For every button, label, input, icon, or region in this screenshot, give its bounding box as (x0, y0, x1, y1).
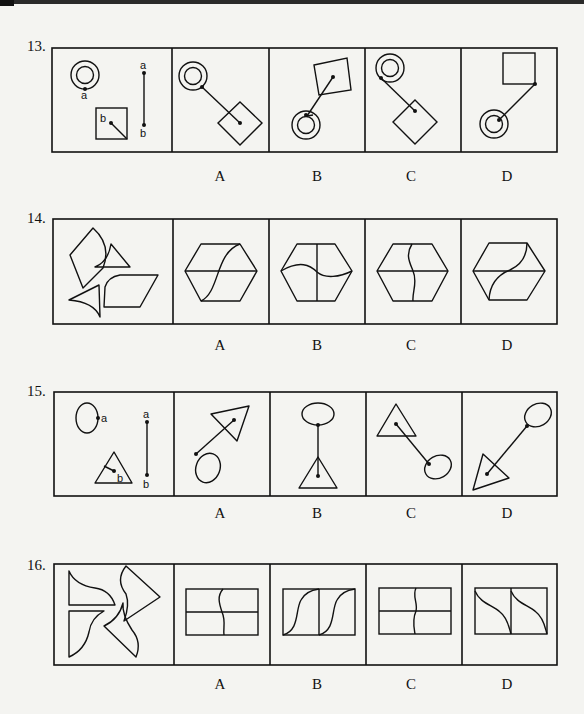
question-14-option-b-figure (281, 244, 352, 301)
stem-label-b-line: b (143, 478, 149, 490)
question-15-option-c-label[interactable]: C (391, 505, 431, 522)
stem-label-b-line: b (140, 127, 146, 139)
question-15-option-a-figure (192, 406, 249, 486)
stem-label-b-square: b (100, 112, 106, 124)
question-14-option-a-label[interactable]: A (200, 337, 240, 354)
question-13-option-b-figure (292, 58, 351, 139)
question-15-figure-row: a a b b (0, 385, 584, 505)
stem-label-a-circle: a (81, 89, 88, 101)
question-16-figure-row (0, 560, 584, 670)
question-16-option-b-figure (283, 589, 355, 635)
question-13-option-c-label[interactable]: C (391, 168, 431, 185)
question-13-option-c-figure (376, 54, 437, 144)
question-13-option-d-label[interactable]: D (487, 168, 527, 185)
stem-label-b-triangle: b (117, 472, 123, 484)
question-16-stem (69, 566, 160, 657)
question-14-option-d-figure (473, 243, 545, 300)
question-16-option-c-label[interactable]: C (391, 676, 431, 693)
question-15-option-a-label[interactable]: A (200, 505, 240, 522)
stem-label-a-line: a (140, 59, 147, 71)
question-13-figure-row: a a b b (0, 40, 584, 160)
question-14-option-c-figure (377, 244, 448, 301)
question-15-option-c-figure (377, 404, 456, 484)
question-15-option-d-figure (473, 398, 556, 490)
top-border-notch (0, 0, 14, 6)
question-16-option-a-figure (186, 589, 258, 635)
question-15-option-d-label[interactable]: D (487, 505, 527, 522)
stem-label-a-ellipse: a (101, 412, 108, 424)
question-14-option-c-label[interactable]: C (391, 337, 431, 354)
question-14-stem (69, 228, 158, 317)
question-16-option-a-label[interactable]: A (200, 676, 240, 693)
question-14-option-b-label[interactable]: B (297, 337, 337, 354)
question-13-option-a-label[interactable]: A (200, 168, 240, 185)
question-16-option-d-label[interactable]: D (487, 676, 527, 693)
question-15-option-b-label[interactable]: B (297, 505, 337, 522)
question-14-figure-row (0, 210, 584, 335)
question-16-option-b-label[interactable]: B (297, 676, 337, 693)
top-border-bar (0, 0, 584, 4)
question-13-option-d-figure (480, 53, 535, 138)
question-13-option-b-label[interactable]: B (297, 168, 337, 185)
stem-label-a-line: a (143, 408, 150, 420)
question-14-option-d-label[interactable]: D (487, 337, 527, 354)
question-14-option-a-figure (185, 244, 257, 301)
question-13-option-a-figure (179, 62, 262, 145)
question-15-stem (76, 403, 147, 483)
question-16-option-c-figure (379, 588, 451, 634)
question-16-option-d-figure (475, 588, 547, 634)
